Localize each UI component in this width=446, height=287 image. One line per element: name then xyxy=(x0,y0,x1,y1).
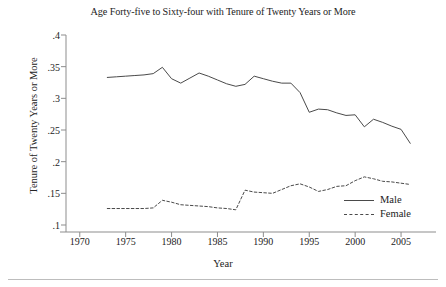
chart-figure: Age Forty-five to Sixty-four with Tenure… xyxy=(0,0,446,287)
y-tick-label: .35 xyxy=(34,61,60,72)
y-axis-tick-labels: .1.15.2.25.3.35.4 xyxy=(32,0,60,287)
legend-label-female: Female xyxy=(380,207,411,221)
y-tick-label: .25 xyxy=(34,125,60,136)
legend-label-male: Male xyxy=(380,193,402,207)
x-tick-label: 2000 xyxy=(333,236,377,247)
x-tick-label: 1975 xyxy=(104,236,148,247)
legend-line-dashed-icon xyxy=(344,209,374,219)
y-tick-label: .1 xyxy=(34,220,60,231)
x-tick-label: 1985 xyxy=(195,236,239,247)
x-tick-label: 1990 xyxy=(241,236,285,247)
legend-item-male: Male xyxy=(344,193,411,207)
chart-title: Age Forty-five to Sixty-four with Tenure… xyxy=(0,6,446,17)
y-tick-label: .2 xyxy=(34,156,60,167)
y-tick-label: .15 xyxy=(34,188,60,199)
legend-item-female: Female xyxy=(344,207,411,221)
legend-line-solid-icon xyxy=(344,195,374,205)
x-tick-label: 1995 xyxy=(287,236,331,247)
x-tick-label: 1980 xyxy=(150,236,194,247)
series-line-male xyxy=(107,67,410,143)
x-tick-label: 1970 xyxy=(58,236,102,247)
x-tick-label: 2005 xyxy=(379,236,423,247)
y-tick-label: .4 xyxy=(34,30,60,41)
x-axis-label: Year xyxy=(0,258,446,269)
y-tick-label: .3 xyxy=(34,93,60,104)
footer-divider xyxy=(8,279,438,280)
chart-legend: Male Female xyxy=(344,193,411,221)
